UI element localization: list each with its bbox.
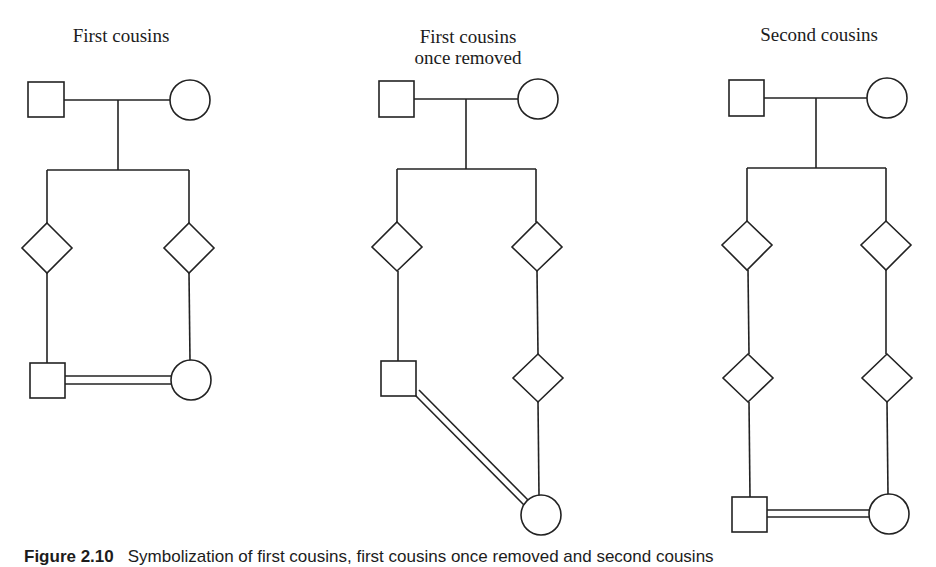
caption-label: Figure 2.10: [24, 547, 114, 566]
pedigree-second-cousins: [722, 78, 912, 534]
female-circle-icon: [171, 360, 211, 400]
descent-line: [887, 402, 888, 495]
unspecified-diamond-icon: [722, 221, 772, 270]
unspecified-diamond-icon: [861, 221, 911, 270]
caption-text: Symbolization of first cousins, first co…: [128, 547, 714, 566]
consanguinity-line: [419, 390, 528, 500]
female-circle-icon: [518, 79, 558, 119]
unspecified-diamond-icon: [723, 354, 773, 402]
female-circle-icon: [170, 80, 210, 120]
male-square-icon: [729, 80, 764, 116]
descent-line: [538, 402, 539, 496]
unspecified-diamond-icon: [862, 354, 912, 402]
figure-caption: Figure 2.10Symbolization of first cousin…: [24, 547, 714, 567]
male-square-icon: [28, 82, 64, 117]
female-circle-icon: [867, 78, 907, 118]
descent-line: [749, 402, 750, 497]
unspecified-diamond-icon: [513, 354, 563, 402]
male-square-icon: [732, 497, 767, 532]
male-square-icon: [30, 363, 65, 398]
pedigree-first-cousins-once-removed: [372, 79, 563, 535]
unspecified-diamond-icon: [512, 222, 562, 271]
pedigree-first-cousins: [22, 80, 214, 400]
descent-line: [537, 271, 538, 354]
unspecified-diamond-icon: [164, 223, 214, 273]
consanguinity-line: [414, 394, 524, 505]
unspecified-diamond-icon: [372, 222, 422, 271]
female-circle-icon: [869, 494, 909, 534]
male-square-icon: [381, 361, 416, 396]
descent-line: [189, 273, 190, 361]
descent-line: [748, 270, 749, 354]
unspecified-diamond-icon: [22, 223, 72, 273]
female-circle-icon: [521, 495, 561, 535]
male-square-icon: [379, 81, 414, 117]
